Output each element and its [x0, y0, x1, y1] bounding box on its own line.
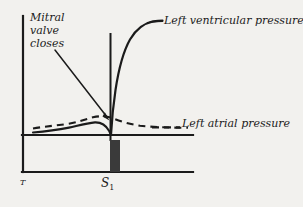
label-left-atrial-pressure: Left atrial pressure [182, 118, 290, 131]
mitral-label-line-1: Mitral [30, 11, 65, 24]
s1-subscript: 1 [109, 183, 114, 192]
mitral-label-line-2: valve [30, 24, 59, 37]
label-left-ventricular-pressure: Left ventricular pressure [164, 15, 303, 28]
label-s1-heart-sound: S1 [101, 176, 114, 193]
mitral-label-line-3: closes [30, 37, 64, 50]
label-time-axis: T [20, 178, 25, 187]
s1-letter: S [101, 176, 109, 190]
s1-sound-bar [110, 140, 120, 172]
annotation-mitral-valve-closes: Mitral valve closes [30, 11, 88, 50]
